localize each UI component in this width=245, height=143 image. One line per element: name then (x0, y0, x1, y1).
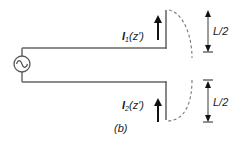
dipole-diagram: I1(z′) I2(z′) L/2 L/2 (b) (0, 0, 245, 143)
dimension-label-lower: L/2 (213, 96, 228, 108)
current-arrow-icon (154, 98, 162, 122)
lower-current-distribution (168, 80, 192, 121)
current-label-1: I1(z′) (122, 30, 144, 43)
transmission-line (22, 48, 167, 82)
current-arrow-icon (154, 15, 162, 40)
upper-dimension-arrow (203, 10, 213, 52)
dimension-label-upper: L/2 (213, 25, 228, 37)
current-label-2: I2(z′) (122, 99, 144, 112)
ac-source-icon (14, 48, 30, 82)
lower-dimension-arrow (203, 80, 213, 122)
upper-current-distribution (169, 10, 192, 58)
figure-caption: (b) (114, 122, 128, 134)
